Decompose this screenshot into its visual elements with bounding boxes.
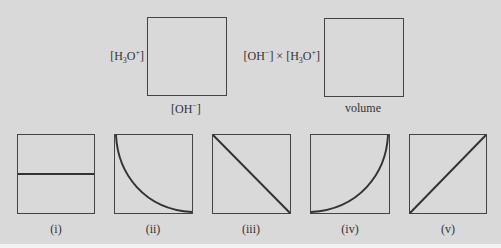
option-i-graph (17, 134, 95, 214)
option-iii-label: (iii) (221, 222, 281, 237)
graph-b-ylabel: [OH−] × [H3O+] (230, 48, 320, 65)
increasing-curve-icon (311, 135, 389, 213)
option-iv-label: (iv) (320, 222, 380, 237)
option-ii-label: (ii) (123, 222, 183, 237)
option-i-label: (i) (26, 222, 86, 237)
graph-a-axes (147, 17, 227, 96)
option-ii-graph (114, 134, 193, 214)
horizontal-line-icon (18, 135, 94, 213)
diagram-panel: [H3O+] [OH−] [OH−] × [H3O+] volume (i) (… (0, 0, 501, 244)
option-v-label: (v) (418, 222, 478, 237)
option-iii-graph (212, 134, 291, 214)
graph-a-xlabel: [OH−] (171, 101, 201, 117)
option-v-graph (409, 134, 487, 214)
graph-a-ylabel: [H3O+] (92, 48, 144, 65)
increasing-line-icon (410, 135, 486, 213)
decreasing-line-icon (213, 135, 290, 213)
decreasing-curve-icon (115, 135, 192, 213)
graph-b-xlabel: volume (345, 101, 381, 116)
graph-b-axes (324, 18, 404, 97)
option-iv-graph (310, 134, 390, 214)
